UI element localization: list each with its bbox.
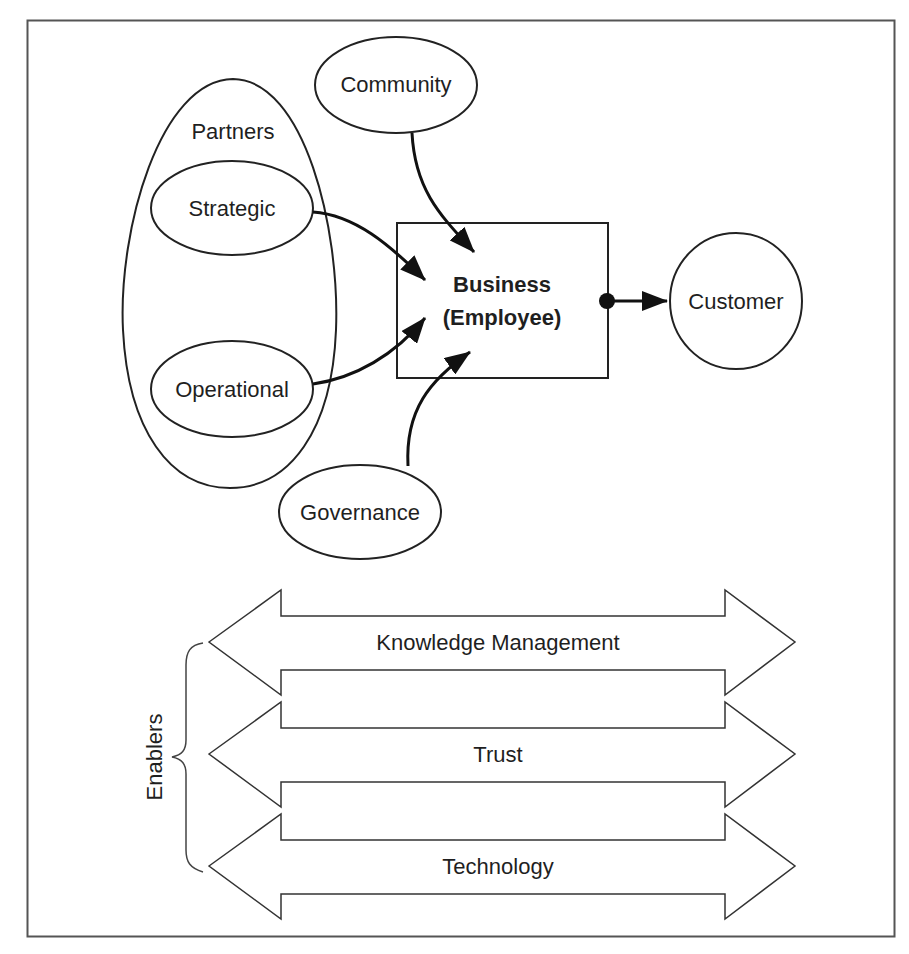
business-node-label-line2: (Employee)	[443, 305, 562, 330]
enablers-brace	[172, 643, 203, 872]
operational-node-label: Operational	[175, 377, 289, 402]
edge-community-business	[412, 133, 474, 252]
enabler-label-technology: Technology	[442, 854, 553, 879]
partners-group-label: Partners	[191, 119, 274, 144]
enabler-label-trust: Trust	[473, 742, 522, 767]
diagram-canvas	[0, 0, 909, 954]
edge-operational-business	[313, 318, 425, 384]
customer-node-label: Customer	[688, 289, 783, 314]
business-node-shape	[397, 223, 608, 378]
governance-node-label: Governance	[300, 500, 420, 525]
edge-governance-business	[408, 352, 470, 466]
community-node-label: Community	[340, 72, 451, 97]
enabler-label-knowledge-management: Knowledge Management	[376, 630, 619, 655]
enablers-label: Enablers	[142, 714, 167, 801]
strategic-node-label: Strategic	[189, 196, 276, 221]
business-node-label-line1: Business	[453, 272, 551, 297]
